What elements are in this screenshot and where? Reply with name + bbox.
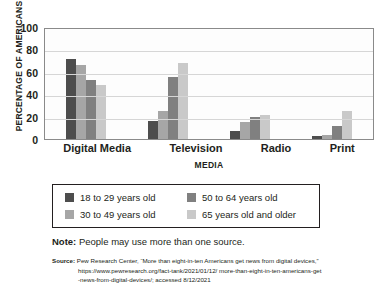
gridline-80 bbox=[45, 51, 373, 52]
x-tick-print: Print bbox=[330, 142, 355, 154]
legend-swatch-icon bbox=[187, 193, 196, 202]
legend-item-0: 18 to 29 years old bbox=[65, 192, 187, 203]
bar-radio-50-to-64-years-old bbox=[250, 117, 260, 139]
legend-swatch-icon bbox=[187, 210, 196, 219]
legend-item-2: 30 to 49 years old bbox=[65, 209, 187, 220]
legend-label: 65 years old and older bbox=[202, 209, 296, 220]
legend-item-3: 65 years old and older bbox=[187, 209, 309, 220]
bar-groups bbox=[45, 29, 373, 139]
bar-print-65-years-old-and-older bbox=[342, 111, 352, 139]
legend-label: 50 to 64 years old bbox=[202, 192, 278, 203]
legend-item-1: 50 to 64 years old bbox=[187, 192, 309, 203]
y-tick-100: 100 bbox=[14, 23, 38, 34]
bar-television-30-to-49-years-old bbox=[158, 111, 168, 139]
bar-group-radio bbox=[230, 29, 270, 139]
y-tick-60: 60 bbox=[14, 68, 38, 79]
bar-radio-18-to-29-years-old bbox=[230, 131, 240, 139]
source-line-2: https://www.pewresearch.org/fact-tank/20… bbox=[52, 266, 382, 276]
bar-digital-media-18-to-29-years-old bbox=[66, 59, 76, 139]
bar-group-print bbox=[312, 29, 352, 139]
x-axis-ticks: Digital MediaTelevisionRadioPrint bbox=[44, 142, 374, 154]
bar-group-television bbox=[148, 29, 188, 139]
gridline-40 bbox=[45, 96, 373, 97]
legend-swatch-icon bbox=[65, 193, 74, 202]
source-line-1: Pew Research Center, “More than eight-in… bbox=[75, 257, 318, 264]
bar-radio-30-to-49-years-old bbox=[240, 122, 250, 139]
y-axis-ticks: 100806040200 bbox=[12, 4, 38, 149]
bar-print-18-to-29-years-old bbox=[312, 136, 322, 139]
source-line-3: -news-from-digital-devices/; accessed 8/… bbox=[52, 275, 382, 285]
bar-print-50-to-64-years-old bbox=[332, 126, 342, 139]
source-label: Source: bbox=[52, 257, 75, 264]
legend-swatch-icon bbox=[65, 210, 74, 219]
note-label: Note: bbox=[52, 236, 76, 247]
y-tick-40: 40 bbox=[14, 90, 38, 101]
y-tick-20: 20 bbox=[14, 113, 38, 124]
chart-source: Source: Pew Research Center, “More than … bbox=[52, 256, 382, 285]
x-tick-digital-media: Digital Media bbox=[63, 142, 131, 154]
legend-label: 30 to 49 years old bbox=[80, 209, 156, 220]
chart-legend: 18 to 29 years old50 to 64 years old30 t… bbox=[52, 184, 320, 228]
bar-print-30-to-49-years-old bbox=[322, 135, 332, 139]
bar-group-digital-media bbox=[66, 29, 106, 139]
legend-label: 18 to 29 years old bbox=[80, 192, 156, 203]
x-tick-radio: Radio bbox=[261, 142, 292, 154]
plot-area bbox=[44, 28, 374, 140]
bar-television-18-to-29-years-old bbox=[148, 121, 158, 139]
bar-digital-media-50-to-64-years-old bbox=[86, 80, 96, 139]
y-tick-80: 80 bbox=[14, 45, 38, 56]
bar-television-50-to-64-years-old bbox=[168, 77, 178, 139]
chart-note: Note: People may use more than one sourc… bbox=[52, 236, 372, 247]
y-tick-0: 0 bbox=[14, 135, 38, 146]
chart-figure: PERCENTAGE OF AMERICANS 100806040200 Dig… bbox=[0, 0, 391, 303]
bar-digital-media-65-years-old-and-older bbox=[96, 85, 106, 139]
bar-digital-media-30-to-49-years-old bbox=[76, 65, 86, 139]
x-axis-title: MEDIA bbox=[44, 160, 374, 170]
bar-chart: PERCENTAGE OF AMERICANS 100806040200 Dig… bbox=[0, 4, 391, 164]
gridline-60 bbox=[45, 74, 373, 75]
x-tick-television: Television bbox=[169, 142, 222, 154]
note-text: People may use more than one source. bbox=[76, 236, 244, 247]
gridline-20 bbox=[45, 119, 373, 120]
